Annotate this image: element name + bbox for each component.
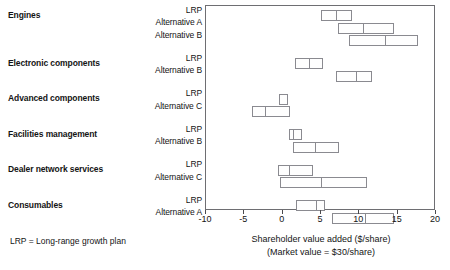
group-label-electronic-components: Electronic components	[8, 58, 100, 68]
axis-tick-label: 5	[300, 214, 340, 224]
axis-tick-label: -5	[223, 214, 263, 224]
median-marker	[336, 10, 337, 21]
median-marker	[265, 106, 266, 117]
value-range-box	[206, 177, 434, 188]
group-label-advanced-components: Advanced components	[8, 93, 100, 103]
scenario-label: Alternative A	[82, 207, 202, 217]
median-marker	[385, 35, 386, 46]
median-marker	[363, 23, 364, 34]
range-box	[280, 177, 367, 188]
scenario-label: LRP	[82, 124, 202, 134]
range-box	[278, 165, 313, 176]
range-box	[349, 35, 418, 46]
scenario-label: LRP	[82, 88, 202, 98]
category-label-column: LRPAlternative AAlternative BLRPAlternat…	[78, 0, 202, 215]
median-marker	[315, 142, 316, 153]
range-box	[289, 129, 302, 140]
value-range-box	[206, 94, 434, 105]
group-label-dealer-network-services: Dealer network services	[8, 164, 103, 174]
plot-area	[205, 5, 435, 210]
scenario-label: Alternative B	[82, 30, 202, 40]
median-marker	[356, 71, 357, 82]
x-axis-title: Shareholder value added ($/share)	[205, 234, 437, 244]
value-range-box	[206, 165, 434, 176]
shareholder-value-chart: LRPAlternative AAlternative BLRPAlternat…	[0, 0, 450, 270]
x-axis: -10-505101520	[205, 210, 435, 232]
value-range-box	[206, 10, 434, 21]
scenario-label: LRP	[82, 5, 202, 15]
range-box	[252, 106, 290, 117]
median-marker	[293, 129, 294, 140]
median-marker	[309, 58, 310, 69]
value-range-box	[206, 71, 434, 82]
axis-tick-label: 20	[415, 214, 450, 224]
x-axis-subtitle: (Market value = $30/share)	[205, 247, 437, 257]
value-range-box	[206, 142, 434, 153]
value-range-box	[206, 129, 434, 140]
scenario-label: LRP	[82, 195, 202, 205]
range-box	[279, 94, 288, 105]
scenario-label: Alternative A	[82, 17, 202, 27]
scenario-label: Alternative C	[82, 101, 202, 111]
median-marker	[321, 177, 322, 188]
axis-tick-label: -10	[185, 214, 225, 224]
axis-tick-label: 0	[262, 214, 302, 224]
axis-tick-label: 10	[338, 214, 378, 224]
value-range-box	[206, 58, 434, 69]
scenario-label: Alternative B	[82, 65, 202, 75]
value-range-box	[206, 23, 434, 34]
scenario-label: Alternative B	[82, 136, 202, 146]
group-label-engines: Engines	[8, 10, 40, 20]
group-label-consumables: Consumables	[8, 200, 63, 210]
range-box	[336, 71, 371, 82]
range-box	[338, 23, 394, 34]
scenario-label: LRP	[82, 53, 202, 63]
group-label-facilities-management: Facilities management	[8, 129, 97, 139]
value-range-box	[206, 106, 434, 117]
value-range-box	[206, 35, 434, 46]
footnote-lrp-definition: LRP = Long-range growth plan	[10, 236, 126, 246]
axis-tick-label: 15	[377, 214, 417, 224]
median-marker	[289, 165, 290, 176]
